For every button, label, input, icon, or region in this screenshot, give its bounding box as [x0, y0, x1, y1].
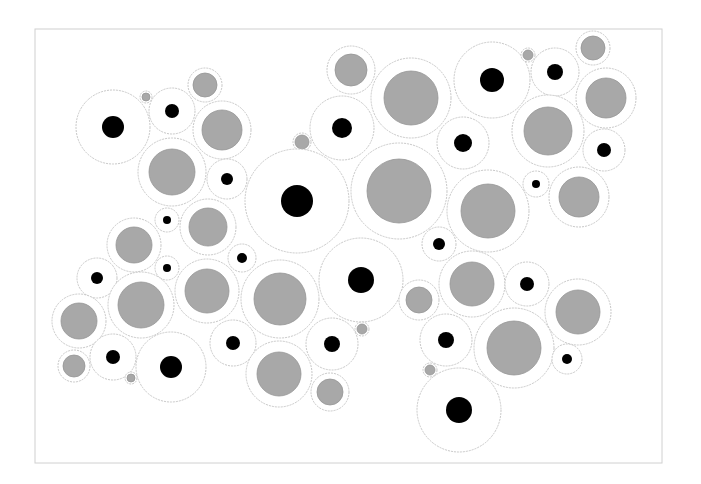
- gray-core-dot: [63, 355, 85, 377]
- circle-node-black: [319, 238, 403, 322]
- circle-node-gray: [193, 101, 251, 159]
- gray-core-dot: [523, 50, 533, 60]
- gray-core-dot: [425, 365, 435, 375]
- circle-node-gray: [107, 218, 161, 272]
- circle-node-gray: [576, 68, 636, 128]
- gray-core-dot: [257, 352, 301, 396]
- circle-node-gray: [474, 308, 554, 388]
- gray-core-dot: [118, 282, 164, 328]
- circle-node-gray: [188, 68, 222, 102]
- black-core-dot: [438, 332, 454, 348]
- circle-node-gray: [311, 373, 349, 411]
- gray-core-dot: [586, 78, 626, 118]
- gray-core-dot: [406, 287, 432, 313]
- circle-node-black: [552, 344, 582, 374]
- circle-node-black: [531, 48, 579, 96]
- circle-node-gray: [108, 272, 174, 338]
- black-core-dot: [160, 356, 182, 378]
- circle-node-black: [155, 208, 179, 232]
- circle-node-gray: [180, 199, 236, 255]
- gray-core-dot: [189, 208, 227, 246]
- black-core-dot: [165, 104, 179, 118]
- gray-core-dot: [384, 71, 438, 125]
- circle-node-gray: [521, 48, 535, 62]
- circle-node-black: [306, 318, 358, 370]
- black-core-dot: [348, 267, 374, 293]
- circle-node-gray: [351, 143, 447, 239]
- black-core-dot: [102, 116, 124, 138]
- circle-packing-diagram: [0, 0, 701, 484]
- black-core-dot: [532, 180, 540, 188]
- circle-node-black: [245, 149, 349, 253]
- circle-node-gray: [439, 251, 505, 317]
- circle-node-gray: [58, 350, 90, 382]
- black-core-dot: [454, 134, 472, 152]
- black-core-dot: [281, 185, 313, 217]
- gray-core-dot: [149, 149, 195, 195]
- circle-node-gray: [327, 46, 375, 94]
- black-core-dot: [106, 350, 120, 364]
- gray-core-dot: [142, 93, 150, 101]
- gray-core-dot: [450, 262, 494, 306]
- circle-node-gray: [140, 91, 152, 103]
- circle-node-gray: [175, 259, 239, 323]
- circle-node-black: [228, 244, 256, 272]
- gray-core-dot: [357, 324, 367, 334]
- circle-group: [52, 31, 636, 452]
- black-core-dot: [520, 277, 534, 291]
- gray-core-dot: [559, 177, 599, 217]
- gray-core-dot: [295, 135, 309, 149]
- circle-node-gray: [576, 31, 610, 65]
- circle-node-black: [437, 117, 489, 169]
- black-core-dot: [237, 253, 247, 263]
- circle-node-gray: [125, 372, 137, 384]
- black-core-dot: [446, 397, 472, 423]
- gray-core-dot: [556, 290, 600, 334]
- gray-core-dot: [367, 159, 431, 223]
- circle-node-gray: [399, 280, 439, 320]
- black-core-dot: [163, 216, 171, 224]
- black-core-dot: [597, 143, 611, 157]
- circle-node-black: [136, 332, 206, 402]
- circle-node-black: [155, 256, 179, 280]
- gray-core-dot: [61, 303, 97, 339]
- circle-node-black: [417, 368, 501, 452]
- circle-node-black: [420, 314, 472, 366]
- circle-node-gray: [447, 170, 529, 252]
- black-core-dot: [480, 68, 504, 92]
- circle-node-gray: [355, 322, 369, 336]
- circle-node-black: [454, 42, 530, 118]
- black-core-dot: [163, 264, 171, 272]
- gray-core-dot: [127, 374, 135, 382]
- circle-node-gray: [371, 58, 451, 138]
- circle-node-black: [505, 262, 549, 306]
- gray-core-dot: [193, 73, 217, 97]
- gray-core-dot: [487, 321, 541, 375]
- black-core-dot: [91, 272, 103, 284]
- gray-core-dot: [202, 110, 242, 150]
- gray-core-dot: [335, 54, 367, 86]
- gray-core-dot: [317, 379, 343, 405]
- circle-node-black: [422, 227, 456, 261]
- circle-node-gray: [512, 95, 584, 167]
- circle-node-gray: [138, 138, 206, 206]
- circle-node-gray: [293, 133, 311, 151]
- circle-node-gray: [423, 363, 437, 377]
- black-core-dot: [324, 336, 340, 352]
- gray-core-dot: [524, 107, 572, 155]
- gray-core-dot: [581, 36, 605, 60]
- circle-node-black: [583, 129, 625, 171]
- gray-core-dot: [461, 184, 515, 238]
- black-core-dot: [226, 336, 240, 350]
- black-core-dot: [547, 64, 563, 80]
- circle-node-gray: [241, 260, 319, 338]
- circle-node-gray: [549, 167, 609, 227]
- circle-node-black: [149, 88, 195, 134]
- circle-node-black: [310, 96, 374, 160]
- circle-node-gray: [545, 279, 611, 345]
- circle-node-black: [523, 171, 549, 197]
- circle-node-black: [76, 90, 150, 164]
- black-core-dot: [332, 118, 352, 138]
- gray-core-dot: [185, 269, 229, 313]
- black-core-dot: [433, 238, 445, 250]
